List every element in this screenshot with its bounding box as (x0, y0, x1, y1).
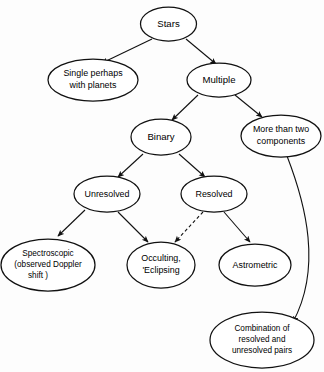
node-multiple-label: Multiple (202, 74, 235, 85)
edge-resolved-to-astrometric (224, 212, 250, 242)
node-spectroscopic-label-line1: Spectroscopic (22, 249, 73, 258)
node-combination-label-line1: Combination of (234, 324, 290, 333)
node-spectroscopic[interactable]: Spectroscopic (observed Doppler shift ) (1, 239, 95, 291)
edge-multiple-to-binary (172, 95, 198, 120)
node-spectroscopic-label-line2: (observed Doppler (14, 260, 82, 269)
node-unresolved-label: Unresolved (85, 189, 130, 199)
edge-binary-to-unresolved (118, 154, 143, 177)
node-spectroscopic-label-line3: shift ) (28, 271, 48, 280)
edge-stars-to-single (102, 39, 152, 63)
flow-chart-diagram: Stars Single perhaps with planets Multip… (0, 0, 324, 372)
node-astrometric-label: Astrometric (233, 260, 278, 270)
edge-stars-to-multiple (186, 39, 216, 64)
node-resolved-label: Resolved (196, 189, 233, 199)
node-more-than-two-label-line1: More than two (253, 124, 309, 134)
node-single-label-line1: Single perhaps (63, 68, 123, 78)
node-unresolved[interactable]: Unresolved (74, 176, 140, 212)
node-single-perhaps-with-planets[interactable]: Single perhaps with planets (48, 59, 138, 101)
node-combination-label-line3: unresolved pairs (232, 346, 292, 355)
node-combination[interactable]: Combination of resolved and unresolved p… (210, 312, 314, 368)
edge-resolved-to-occulting (175, 212, 203, 242)
node-more-than-two-components[interactable]: More than two components (241, 115, 321, 157)
node-binary-label: Binary (147, 131, 174, 142)
edge-multiple-to-more-than-two (235, 95, 262, 117)
node-single-label-line2: with planets (69, 80, 117, 90)
edge-more-than-two-to-combination (287, 156, 309, 322)
node-occulting-eclipsing[interactable]: Occulting, 'Eclipsing (127, 242, 195, 288)
edge-unresolved-to-occulting (118, 212, 148, 242)
node-stars[interactable]: Stars (141, 7, 197, 41)
node-astrometric[interactable]: Astrometric (219, 244, 291, 286)
node-resolved[interactable]: Resolved (181, 176, 247, 212)
edge-binary-to-resolved (179, 154, 205, 177)
node-binary[interactable]: Binary (131, 119, 191, 155)
node-multiple[interactable]: Multiple (187, 63, 251, 97)
node-occulting-label-line2: 'Eclipsing (142, 265, 179, 275)
flow-chart-canvas: Stars Single perhaps with planets Multip… (0, 0, 324, 372)
node-occulting-label-line1: Occulting, (141, 253, 180, 263)
node-stars-label: Stars (157, 18, 180, 29)
edge-unresolved-to-spectroscopic (58, 210, 85, 236)
node-combination-label-line2: resolved and (239, 335, 286, 344)
node-more-than-two-label-line2: components (257, 136, 306, 146)
